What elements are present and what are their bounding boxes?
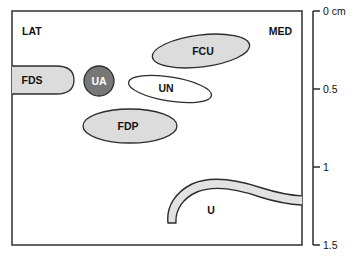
structure-ua: UA bbox=[84, 66, 114, 96]
ruler-label-2: 1 bbox=[323, 161, 329, 173]
ruler-label-3: 1.5 bbox=[323, 239, 338, 251]
orientation-label-medial: MED bbox=[269, 25, 293, 37]
fds-label: FDS bbox=[22, 74, 43, 86]
diagram-canvas: LAT MED FCU FDS UA UN bbox=[0, 0, 362, 269]
ruler-label-0: 0 cm bbox=[323, 5, 346, 17]
structure-fdp: FDP bbox=[83, 109, 177, 143]
structure-fds: FDS bbox=[0, 66, 74, 94]
fdp-label: FDP bbox=[118, 120, 139, 132]
anatomical-diagram-figure: LAT MED FCU FDS UA UN bbox=[0, 0, 362, 269]
un-label: UN bbox=[158, 82, 173, 94]
orientation-label-lateral: LAT bbox=[22, 25, 42, 37]
ulna-label: U bbox=[207, 204, 215, 216]
ua-label: UA bbox=[91, 75, 107, 87]
depth-ruler: 0 cm 0.5 1 1.5 bbox=[313, 5, 346, 251]
fcu-label: FCU bbox=[192, 45, 214, 57]
ruler-label-1: 0.5 bbox=[323, 83, 338, 95]
